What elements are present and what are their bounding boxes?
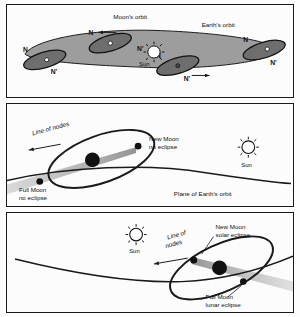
figure-root: N N N' N N' N N' bbox=[0, 0, 300, 317]
new-moon-sublabel: no eclipse bbox=[149, 143, 178, 150]
sun-label: Sun bbox=[129, 248, 140, 254]
panel-orbital-overview: N N N' N N' N N' bbox=[6, 4, 294, 98]
full-moon-sublabel: lunar eclipse bbox=[206, 301, 242, 308]
node-label-np-right: N' bbox=[270, 59, 277, 66]
earth-body bbox=[85, 153, 100, 168]
line-of-nodes-label: Line of nodes bbox=[31, 120, 70, 137]
node-label-np-bottom: N' bbox=[184, 75, 191, 82]
earth-body bbox=[212, 261, 227, 276]
full-moon-sublabel: no eclipse bbox=[19, 194, 48, 201]
node-label-n-right: N bbox=[243, 36, 248, 43]
earths-orbit-label: Earth's orbit bbox=[202, 21, 235, 28]
new-moon-marker bbox=[190, 257, 197, 264]
new-moon-label: New Moon bbox=[216, 223, 246, 230]
sun-label: Sun bbox=[241, 162, 252, 168]
sun-icon bbox=[238, 137, 259, 158]
full-moon-label: Full Moon bbox=[19, 186, 47, 193]
line-of-nodes-arrow bbox=[29, 144, 61, 150]
new-moon-marker bbox=[135, 143, 142, 150]
moons-orbit-label: Moon's orbit bbox=[113, 13, 147, 20]
full-moon-marker bbox=[240, 278, 247, 285]
node-label-n-left: N bbox=[23, 46, 28, 53]
new-moon-label: New Moon bbox=[149, 135, 179, 142]
node-label-np-left: N' bbox=[51, 69, 58, 76]
sun-icon bbox=[126, 224, 147, 245]
sun-label: Sun bbox=[139, 61, 150, 67]
full-moon-marker bbox=[36, 178, 43, 185]
line-of-nodes-arrow bbox=[154, 258, 188, 264]
full-moon-label: Full Moon bbox=[206, 293, 234, 300]
panel-eclipse: Line of nodes New Moon solar eclipse Ful… bbox=[6, 212, 294, 313]
node-label-n-top-left: N bbox=[88, 29, 93, 36]
new-moon-sublabel: solar eclipse bbox=[216, 231, 251, 238]
node-label-np-center: N' bbox=[137, 45, 144, 52]
panel-no-eclipse: Line of nodes New Moon no eclipse Full M… bbox=[6, 103, 294, 207]
plane-label: Plane of Earth's orbit bbox=[174, 190, 232, 197]
